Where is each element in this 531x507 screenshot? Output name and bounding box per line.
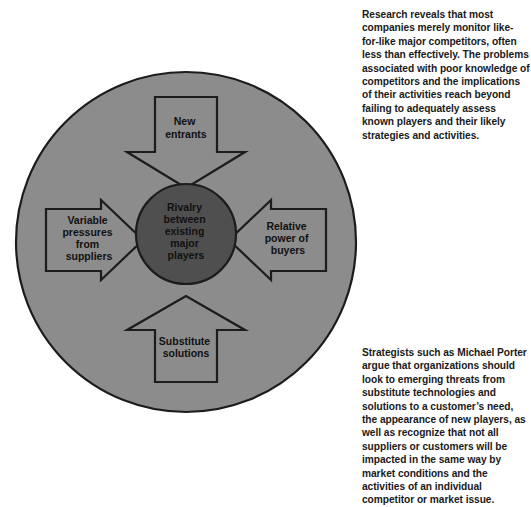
five-forces-diagram: New entrants Variable pressures from sup… [0, 0, 372, 488]
diagram-svg: New entrants Variable pressures from sup… [0, 0, 372, 488]
commentary-bottom: Strategists such as Michael Porter argue… [362, 346, 530, 507]
arrow-buyer-power-label: Relative power of buyers [265, 220, 312, 256]
rivalry-core: Rivalry between existing major players [136, 184, 236, 284]
rivalry-core-label: Rivalry between existing major players [164, 201, 209, 261]
arrow-substitute-solutions-label: Substitute solutions [159, 335, 213, 359]
commentary-top: Research reveals that most companies mer… [362, 8, 530, 142]
